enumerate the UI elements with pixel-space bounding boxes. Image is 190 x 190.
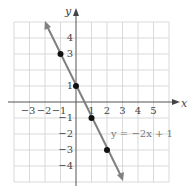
x-axis-label: x xyxy=(181,97,188,110)
point-2-neg3 xyxy=(104,147,110,153)
point-0-1 xyxy=(73,83,79,89)
x-tick-label: 3 xyxy=(119,105,125,116)
point-1-neg1 xyxy=(89,115,95,121)
y-axis-arrow-icon xyxy=(73,8,79,16)
y-tick-label: 1 xyxy=(67,80,73,91)
x-tick-label: 4 xyxy=(135,105,141,116)
y-tick-label: −3 xyxy=(58,144,73,155)
point-neg1-3 xyxy=(58,51,64,57)
x-tick-label: 5 xyxy=(150,105,156,116)
x-axis-arrow-icon xyxy=(172,99,180,105)
y-tick-label: 4 xyxy=(67,32,73,43)
equation-label: y = −2x + 1 xyxy=(110,128,173,139)
x-tick-label: 2 xyxy=(104,105,110,116)
y-tick-label: −1 xyxy=(58,112,73,123)
y-tick-label: −4 xyxy=(58,160,73,171)
coordinate-plane: x y −3 −2 −1 1 2 3 4 5 4 3 1 −1 −2 −3 −4… xyxy=(0,0,190,190)
y-tick-label: 3 xyxy=(67,48,73,59)
y-axis-label: y xyxy=(64,5,72,18)
x-tick-label: −3 xyxy=(21,105,36,116)
x-tick-label: −2 xyxy=(37,105,52,116)
y-tick-label: −2 xyxy=(58,128,73,139)
